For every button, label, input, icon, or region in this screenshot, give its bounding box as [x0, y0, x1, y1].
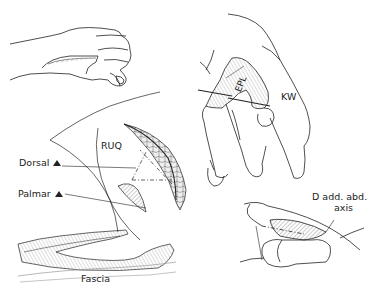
dorsal-text: Dorsal — [19, 157, 49, 168]
palmar-label: Palmar — [18, 189, 63, 199]
dorsal-triangle-icon — [53, 160, 61, 166]
palmar-text: Palmar — [18, 188, 51, 199]
anatomical-illustration — [0, 0, 380, 296]
ruq-crosssection-drawing — [50, 92, 186, 240]
dorsal-label: Dorsal — [19, 158, 61, 168]
fascia-label: Fascia — [81, 274, 110, 284]
kw-label: KW — [281, 92, 296, 102]
axis-label-line1: D add. abd. — [312, 192, 367, 202]
palmar-triangle-icon — [55, 191, 63, 197]
ruq-label: RUQ — [101, 141, 122, 151]
axis-label-line2: axis — [334, 203, 353, 213]
hand-lateral-drawing — [10, 28, 131, 87]
